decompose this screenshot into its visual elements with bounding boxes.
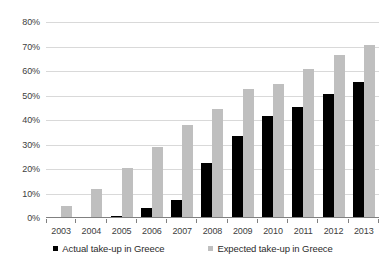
- bar-actual-2010[interactable]: [262, 116, 273, 218]
- bar-expected-2011[interactable]: [303, 69, 314, 218]
- x-axis-tick-label: 2009: [233, 226, 253, 236]
- bar-actual-2007[interactable]: [171, 200, 182, 218]
- x-axis-tick-2012: 2012: [318, 219, 348, 236]
- x-axis-tick-2013: 2013: [349, 219, 379, 236]
- bar-expected-2009[interactable]: [243, 89, 254, 218]
- x-axis-tick-2008: 2008: [197, 219, 227, 236]
- bar-expected-2012[interactable]: [334, 55, 345, 218]
- x-axis-tick-2004: 2004: [76, 219, 106, 236]
- bar-expected-2008[interactable]: [212, 109, 223, 218]
- bar-expected-2006[interactable]: [152, 147, 163, 218]
- x-axis-tick-label: 2010: [263, 226, 283, 236]
- legend-swatch-icon: [53, 246, 58, 251]
- bar-expected-2007[interactable]: [182, 125, 193, 218]
- bar-actual-2008[interactable]: [201, 163, 212, 218]
- bar-group-2005: [107, 22, 137, 218]
- x-axis-tick-label: 2013: [354, 226, 374, 236]
- x-axis-tick-2007: 2007: [167, 219, 197, 236]
- x-axis-tick-2009: 2009: [228, 219, 258, 236]
- x-axis-edge-tick: [46, 219, 47, 223]
- x-axis-tick-mark: [378, 219, 379, 223]
- bar-actual-2009[interactable]: [232, 136, 243, 218]
- legend-item-expected[interactable]: Expected take-up in Greece: [208, 243, 332, 254]
- x-axis-tick-2006: 2006: [137, 219, 167, 236]
- legend-swatch-icon: [208, 246, 213, 251]
- x-axis-tick-label: 2003: [51, 226, 71, 236]
- x-axis-tick-2003: 2003: [46, 219, 76, 236]
- bar-expected-2013[interactable]: [364, 45, 375, 218]
- bar-expected-2005[interactable]: [122, 168, 133, 218]
- x-axis-tick-2011: 2011: [288, 219, 318, 236]
- x-axis-tick-label: 2008: [203, 226, 223, 236]
- y-axis-tick-label: 0%: [27, 213, 40, 223]
- bar-actual-2012[interactable]: [323, 94, 334, 218]
- bar-expected-2010[interactable]: [273, 84, 284, 218]
- bar-group-2007: [167, 22, 197, 218]
- bar-group-2003: [46, 22, 76, 218]
- bar-group-2013: [349, 22, 379, 218]
- y-axis-tick-label: 80%: [22, 17, 40, 27]
- bar-group-2012: [318, 22, 348, 218]
- x-axis-tick-2005: 2005: [107, 219, 137, 236]
- y-axis-tick-label: 10%: [22, 189, 40, 199]
- y-axis-tick-label: 70%: [22, 42, 40, 52]
- y-axis-tick-label: 20%: [22, 164, 40, 174]
- bar-actual-2011[interactable]: [292, 107, 303, 218]
- x-axis-line: [46, 217, 379, 218]
- bar-actual-2013[interactable]: [353, 82, 364, 218]
- bar-group-2008: [197, 22, 227, 218]
- bar-chart: 80%70%60%50%40%30%20%10%0% 2003200420052…: [0, 0, 386, 267]
- y-axis-tick-label: 60%: [22, 66, 40, 76]
- bar-series-container: [46, 22, 379, 218]
- x-axis-tick-label: 2007: [172, 226, 192, 236]
- y-axis-tick-label: 50%: [22, 91, 40, 101]
- bar-group-2011: [288, 22, 318, 218]
- x-axis-tick-label: 2004: [82, 226, 102, 236]
- x-axis-tick-label: 2012: [324, 226, 344, 236]
- plot-area: 80%70%60%50%40%30%20%10%0%: [46, 22, 379, 218]
- bar-group-2006: [137, 22, 167, 218]
- legend-label: Actual take-up in Greece: [62, 243, 164, 254]
- bar-group-2009: [228, 22, 258, 218]
- x-axis-labels: 2003200420052006200720082009201020112012…: [46, 219, 379, 236]
- x-axis-tick-label: 2005: [112, 226, 132, 236]
- y-axis-tick-label: 30%: [22, 140, 40, 150]
- x-axis-tick-2010: 2010: [258, 219, 288, 236]
- x-axis-tick-label: 2006: [142, 226, 162, 236]
- bar-group-2010: [258, 22, 288, 218]
- legend-label: Expected take-up in Greece: [217, 243, 332, 254]
- y-axis-tick-label: 40%: [22, 115, 40, 125]
- chart-legend: Actual take-up in GreeceExpected take-up…: [0, 243, 386, 254]
- bar-expected-2004[interactable]: [91, 189, 102, 218]
- x-axis-tick-label: 2011: [294, 226, 313, 236]
- bar-group-2004: [76, 22, 106, 218]
- legend-item-actual[interactable]: Actual take-up in Greece: [53, 243, 164, 254]
